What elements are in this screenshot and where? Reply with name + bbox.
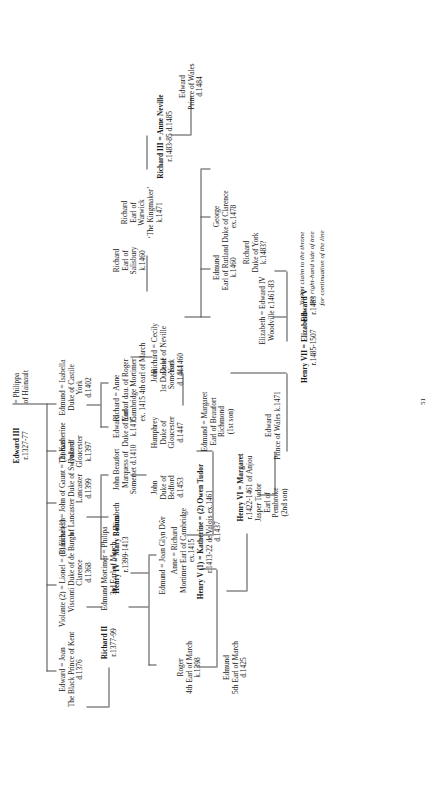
node-richard-cambridge-line4: ex. 1415 4th earl of March: [138, 285, 147, 421]
node-richard-cambridge-line1: Richard = Anne: [112, 285, 121, 421]
connector-henry4-down: [130, 572, 148, 573]
node-george-line1: George: [212, 177, 221, 255]
connector-edward3-down: [34, 403, 46, 404]
connector-ry-child-george: [200, 216, 210, 217]
node-richard-duke-of-york: Richard = Cecily Duke of Neville York k.…: [150, 265, 185, 373]
connector-salisbury-to-warwick: [146, 255, 147, 291]
node-edward-pow1484-line3: d.1484: [195, 47, 204, 125]
node-henry6-line1: Henry VI = Margaret: [236, 429, 245, 545]
connector-richard3-down: [170, 134, 190, 135]
node-edward-iii: Edward III r.1327-77: [12, 405, 29, 485]
connector-edward4-down: [272, 316, 286, 317]
node-henry6-line2: r.1422-1461 of Anjou: [245, 429, 254, 545]
connector-child-edmund-york: [46, 403, 56, 404]
node-henry-v: Henry V (1) = Katherine = (2) Owen Tudor…: [196, 447, 222, 615]
connector-edward4-children-bus: [286, 271, 287, 341]
connector-mortimer3-down: [128, 606, 148, 607]
node-humphrey-duke-of-gloucester: Humphrey Duke of Gloucester d.1447: [150, 401, 185, 463]
connector-edmundyork-child-richard: [100, 382, 108, 383]
family-tree-figure: Edward III r.1327-77 = Philippa of Haina…: [0, 0, 437, 803]
node-richard-york-line1: Richard = Cecily: [150, 265, 159, 373]
node-warwick-line1: Richard: [120, 169, 129, 255]
connector-henry6-down: [258, 494, 274, 495]
node-richard-iii: Richard III = Anne Neville r.1483-85 d.1…: [156, 69, 173, 203]
note-line-2: See right-hand side of tree: [306, 230, 316, 305]
yorkist-claim-note: Yorkist claim to the throne See right-ha…: [296, 230, 326, 305]
connector-mortimer3-children-bus: [148, 555, 149, 665]
connector-roger-down: [196, 666, 216, 667]
connector-edward3-children-bus: [46, 403, 47, 671]
node-salisbury-line1: Richard: [112, 229, 121, 291]
node-henry4-line2: r.1399-1413: [121, 501, 130, 607]
node-edmund-tudor-line1: Edmund = Margaret: [200, 375, 209, 467]
connector-gaunt-child-beaufort: [100, 474, 108, 475]
node-richard-earl-of-cambridge: Richard = Anne Earl of dau. of Roger Cam…: [112, 285, 147, 421]
node-richard3-line2: r.1483-85 d.1485: [165, 69, 174, 203]
connector-child-lionel: [46, 584, 56, 585]
page-number-value: 51: [418, 391, 426, 411]
connector-ry-child-edmund-rutland: [200, 268, 210, 269]
connector-gaunt-child-elizabeth: [100, 516, 108, 517]
node-richard-york-line2: Duke of Neville: [159, 265, 168, 373]
node-richard-york-line4: k.1460: [176, 265, 185, 373]
connector-warwick-to-anne-neville: [146, 135, 147, 169]
node-richardyork1483-line1: Richard: [242, 217, 251, 287]
connector-gaunt-down: [86, 516, 100, 517]
connector-to-henry7: [286, 373, 287, 451]
node-richard3-line1: Richard III = Anne Neville: [156, 69, 165, 203]
connector-richardyork-children-bus: [200, 169, 201, 317]
connector-edmundyork-down: [86, 404, 100, 405]
connector-blackprince-down: [86, 706, 108, 707]
node-edward-pow1471-line1: Edward: [264, 365, 273, 485]
node-edward-pow1484-line1: Edward: [178, 47, 187, 125]
node-edmund-mortimer5-line1: Edmund: [222, 627, 231, 707]
node-edward-iii-line1: Edward III: [12, 405, 21, 485]
node-john-duke-of-bedford: John Duke of Bedford d.1453: [150, 459, 185, 515]
connector-ry-child-edward4: [200, 316, 210, 317]
connector-mortimer3-child-roger: [148, 664, 156, 665]
connector-child-gaunt: [46, 502, 56, 503]
node-richard-duke-of-york-1483: Richard Duke of York k.1483?: [242, 217, 268, 287]
node-edmund-york-line1: Edmund = Isabella: [58, 337, 67, 437]
note-line-1: Yorkist claim to the throne: [296, 230, 306, 305]
connector-somerset-to-margaret: [182, 373, 183, 405]
node-edward-prince-of-wales-1471: Edward Prince of Wales k.1471: [264, 365, 281, 485]
node-edward-iii-line2: r.1327-77: [21, 405, 30, 485]
node-henry5-line3: d.1437: [213, 447, 222, 615]
node-bedford-line4: d.1453: [176, 459, 185, 515]
node-edmund-mortimer5-line3: d.1425: [239, 627, 248, 707]
page-number: 51: [418, 391, 426, 411]
node-edmund-tudor: Edmund = Margaret Earl of Beaufort Richm…: [200, 375, 235, 467]
connector-ry-child-richard3: [200, 168, 210, 169]
node-richardyork1483-line3: k.1483?: [259, 217, 268, 287]
note-line-3: for continuation of the line: [316, 230, 326, 305]
node-henry5-line1: Henry V (1) = Katherine = (2) Owen Tudor: [196, 447, 205, 615]
connector-edmundyork-child-edward: [100, 426, 108, 427]
connector-johnbeaufort-down: [130, 474, 146, 475]
node-edward-pow1471-line2: Prince of Wales k.1471: [273, 365, 282, 485]
connector-gaunt-child-henry4: [100, 558, 108, 559]
node-bedford-line1: John: [150, 459, 159, 515]
node-henry-vi: Henry VI = Margaret r.1422-1461 of Anjou: [236, 429, 253, 545]
connector-henry5-down: [226, 590, 246, 591]
node-roger-line1: Roger: [176, 627, 185, 707]
connector-edward4-child-richard: [274, 270, 286, 271]
connector-edmundtudor-down: [230, 372, 286, 373]
node-edmund-york-line4: d.1402: [84, 337, 93, 437]
node-humphrey-line4: d.1447: [176, 401, 185, 463]
family-tree-canvas: Edward III r.1327-77 = Philippa of Haina…: [0, 0, 437, 803]
connector-edward3-marriage: [12, 403, 34, 404]
node-philippa-line2: of Hainault: [21, 331, 30, 403]
node-edmund-mortimer-5th-earl: Edmund 5th Earl of March d.1425: [222, 627, 248, 707]
node-philippa-of-hainault: = Philippa of Hainault: [12, 331, 29, 403]
node-edward-prince-of-wales-1484: Edward Prince of Wales d.1484: [178, 47, 204, 125]
node-philippa-line1: = Philippa: [12, 331, 21, 403]
node-edmund-tudor-line4: (1st son): [226, 375, 235, 467]
node-george-duke-of-clarence: George Duke of Clarence ex.1478: [212, 177, 238, 255]
node-george-line3: ex.1478: [229, 177, 238, 255]
connector-edmundyork-children-bus: [100, 383, 101, 427]
connector-owen-down: [186, 534, 212, 535]
connector-richardyork-down: [184, 316, 200, 317]
connector-mortimer3-child-edmund: [148, 554, 156, 555]
node-humphrey-line1: Humphrey: [150, 401, 159, 463]
